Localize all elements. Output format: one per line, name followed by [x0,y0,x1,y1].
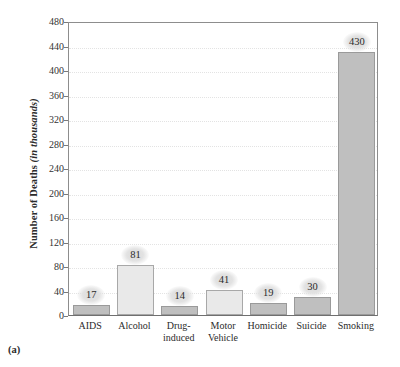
y-axis-tick-label: 360 [24,91,64,101]
y-axis-tick-label: 200 [24,189,64,199]
bar [250,303,287,315]
bar-value-label: 17 [77,285,105,305]
y-axis-tick-label: 280 [24,140,64,150]
gridline [69,97,377,98]
bar [73,305,110,315]
y-axis-tick-label: 400 [24,66,64,76]
y-axis-title-main: Number of Deaths [28,162,39,248]
y-axis-tick-label: 240 [24,164,64,174]
gridline [69,268,377,269]
plot-area: 178114411930430 [68,22,378,316]
bar-value-label: 430 [343,32,371,52]
bar-value-label: 41 [210,270,238,290]
x-axis-category-label: Smoking [326,320,386,332]
gridline [69,170,377,171]
panel-label: (a) [8,344,20,355]
gridline [69,48,377,49]
x-axis-category-label-line: Smoking [326,320,386,332]
gridline [69,195,377,196]
bar-value-label: 19 [254,283,282,303]
bar [161,306,198,315]
gridline [69,219,377,220]
y-axis-tick-label: 80 [24,262,64,272]
y-axis-tick-label: 480 [24,17,64,27]
gridline [69,121,377,122]
bar [294,297,331,315]
bar-value-label: 81 [121,245,149,265]
x-axis-category-label-line: Vehicle [193,332,253,344]
gridline [69,146,377,147]
y-axis-tick-label: 160 [24,213,64,223]
y-axis-tick-label: 320 [24,115,64,125]
bar-value-label: 14 [166,286,194,306]
bar-chart-figure: Number of Deaths (in thousands) 04080120… [0,0,400,367]
gridline [69,244,377,245]
y-axis-tick-mark [64,316,68,317]
bar-value-label: 30 [299,277,327,297]
gridline [69,72,377,73]
y-axis-tick-label: 40 [24,287,64,297]
bar [117,265,154,315]
y-axis-tick-label: 120 [24,238,64,248]
bar [206,290,243,315]
y-axis-tick-label: 440 [24,42,64,52]
bar [338,52,375,315]
y-axis-tick-label: 0 [24,311,64,321]
y-axis-title-units: (in thousands) [28,98,39,162]
